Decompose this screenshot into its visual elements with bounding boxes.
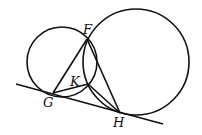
label-G: G: [43, 95, 53, 110]
segment-FH: [87, 39, 120, 113]
large-circle: [83, 9, 189, 115]
small-circle: [27, 27, 97, 97]
geometry-diagram: F K G H: [0, 0, 202, 135]
tangent-line: [16, 84, 163, 124]
label-K: K: [69, 74, 81, 89]
label-H: H: [112, 115, 125, 130]
label-F: F: [82, 22, 93, 37]
